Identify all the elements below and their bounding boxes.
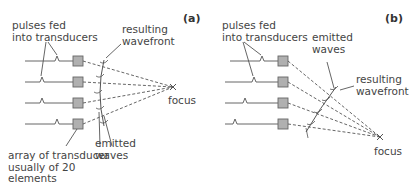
transducer-b1 <box>278 56 288 66</box>
transducer-b2 <box>278 77 288 87</box>
pulse-line-b1 <box>230 56 278 61</box>
transducer-a4 <box>73 119 83 129</box>
transducer-a3 <box>73 98 83 108</box>
transducer-b4 <box>278 119 288 129</box>
pulse-line-a2 <box>25 77 73 82</box>
pulse-line-b2 <box>225 77 278 82</box>
label-emitted-b: emitted waves <box>312 32 353 55</box>
leader-emitted-b <box>327 62 334 88</box>
leader-pulses-b <box>243 42 261 76</box>
pulse-line-b4 <box>225 119 278 124</box>
leader-wavefront-a <box>106 44 121 58</box>
leader-array-a <box>66 129 77 146</box>
leader-pulses-a <box>41 42 57 76</box>
pulse-line-a3 <box>25 98 73 103</box>
label-focus-a: focus <box>168 95 196 107</box>
label-wavefront-b: resulting wavefront <box>356 74 409 97</box>
transducer-a1 <box>73 56 83 66</box>
pulse-line-b3 <box>225 98 278 103</box>
label-pulses-b: pulses fed into transducers <box>222 20 308 43</box>
panel-a-tag: (a) <box>183 12 200 25</box>
focus-marker-a <box>170 84 176 90</box>
panel-a <box>25 42 176 146</box>
pulse-line-a4 <box>25 119 73 124</box>
label-array-a: array of transducer usually of 20 elemen… <box>8 150 109 184</box>
leader-wavefront-b <box>340 86 354 90</box>
label-focus-b: focus <box>374 146 402 158</box>
label-pulses-a: pulses fed into transducers <box>12 20 98 43</box>
pulse-line-a1 <box>25 56 73 61</box>
transducer-a2 <box>73 77 83 87</box>
wavefront-a <box>100 60 104 126</box>
label-wavefront-a: resulting wavefront <box>122 24 175 47</box>
wavefront-b <box>306 87 336 132</box>
panel-b-tag: (b) <box>385 12 403 25</box>
transducer-b3 <box>278 98 288 108</box>
